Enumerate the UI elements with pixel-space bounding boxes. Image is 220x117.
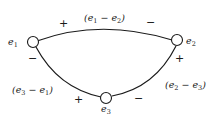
node-e1 — [28, 37, 39, 48]
node-e2 — [172, 35, 183, 46]
sign-minus-e2e3: − — [134, 92, 143, 105]
edge-label-e1-e2: (e1 − e2) — [84, 12, 125, 25]
node-label-e3: e3 — [101, 103, 111, 116]
edge-label-e2-e3: (e2 − e3) — [165, 79, 206, 92]
node-e3 — [101, 93, 112, 104]
sign-minus-e1e2: − — [146, 16, 155, 29]
node-label-e1: e1 — [8, 36, 18, 49]
sign-plus-e2e3: + — [175, 52, 184, 65]
sign-minus-e1e3: − — [28, 52, 37, 65]
sign-plus-e1e2: + — [59, 17, 68, 30]
edge-e1-e2 — [37, 29, 172, 41]
sign-plus-e1e3: + — [74, 93, 83, 106]
node-label-e2: e2 — [186, 35, 196, 48]
edge-label-e3-e1: (e3 − e1) — [12, 84, 53, 97]
circuit-diagram: e1 e2 e3 (e1 − e2) (e3 − e1) (e2 − e3) +… — [0, 0, 220, 117]
